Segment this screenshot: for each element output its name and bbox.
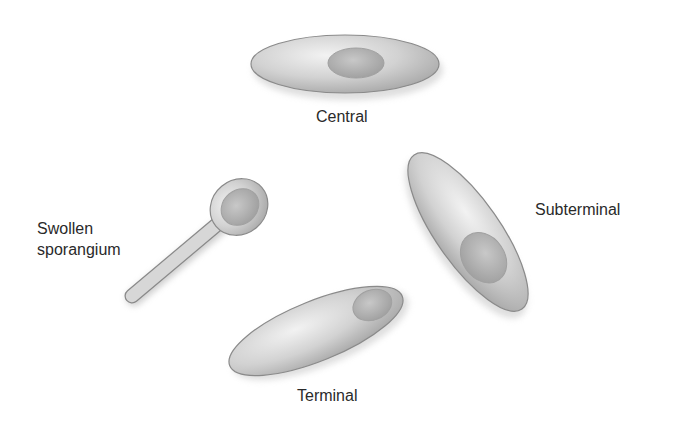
label-swollen-line2: sporangium: [37, 240, 121, 260]
label-central: Central: [316, 107, 368, 127]
endospore-position-diagram: Central Subterminal Swollen sporangium T…: [0, 0, 685, 423]
central-cell: [251, 35, 443, 100]
terminal-cell: [219, 267, 420, 399]
central-spore: [328, 48, 384, 78]
label-subterminal: Subterminal: [535, 200, 620, 220]
label-swollen-line1: Swollen: [37, 219, 93, 239]
swollen-sporangium-cell: [132, 167, 279, 298]
label-terminal: Terminal: [297, 386, 357, 406]
